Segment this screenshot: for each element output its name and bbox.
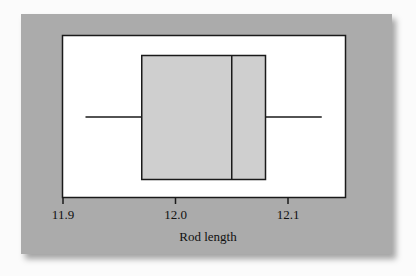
x-tick-label: 12.1 [277, 207, 300, 222]
iqr-box [142, 56, 266, 180]
box-plot-chart: 11.9 12.0 12.1 Rod length [0, 0, 416, 276]
x-tick-label: 12.0 [164, 207, 187, 222]
x-axis-title: Rod length [179, 229, 237, 244]
x-tick-label: 11.9 [52, 207, 74, 222]
x-axis: 11.9 12.0 12.1 [52, 197, 300, 222]
